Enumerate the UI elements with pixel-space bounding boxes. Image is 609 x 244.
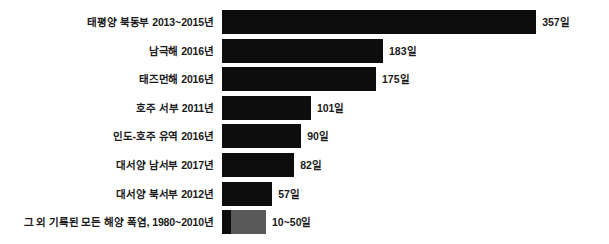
category-label: 호주 서부 2011년	[0, 96, 214, 120]
category-label: 대서양 남서부 2017년	[0, 153, 214, 177]
bar	[222, 96, 311, 120]
bar	[222, 210, 266, 234]
bar-segment	[231, 210, 266, 234]
bar-row: 그 외 기록된 모든 해양 폭염, 1980~2010년 10~50일	[0, 210, 609, 234]
category-label: 대서양 북서부 2012년	[0, 182, 214, 206]
bar-track: 82일	[222, 153, 322, 177]
bar	[222, 182, 272, 206]
value-label: 101일	[317, 96, 345, 120]
value-label: 57일	[278, 182, 300, 206]
bar-segment	[222, 182, 272, 206]
category-label: 인도-호주 유역 2016년	[0, 124, 214, 148]
bar-segment	[222, 67, 376, 91]
bar-segment	[222, 10, 536, 34]
bar-track: 183일	[222, 39, 417, 63]
bar-row: 인도-호주 유역 2016년 90일	[0, 124, 609, 148]
bar-track: 10~50일	[222, 210, 311, 234]
value-label: 357일	[542, 10, 570, 34]
bar-segment	[222, 39, 383, 63]
bar-track: 101일	[222, 96, 344, 120]
bar-row: 대서양 남서부 2017년 82일	[0, 153, 609, 177]
bar-segment	[222, 210, 231, 234]
bar	[222, 153, 294, 177]
bar-track: 357일	[222, 10, 570, 34]
category-label: 태평양 북동부 2013~2015년	[0, 10, 214, 34]
value-label: 175일	[382, 67, 410, 91]
bar-chart: 태평양 북동부 2013~2015년 357일 남극해 2016년 183일 태…	[0, 0, 609, 244]
bar-segment	[222, 96, 311, 120]
bar-track: 90일	[222, 124, 329, 148]
value-label: 183일	[389, 39, 417, 63]
bar-row: 태즈먼해 2016년 175일	[0, 67, 609, 91]
value-label: 90일	[307, 124, 329, 148]
bar-row: 대서양 북서부 2012년 57일	[0, 182, 609, 206]
bar-row: 호주 서부 2011년 101일	[0, 96, 609, 120]
value-label: 82일	[300, 153, 322, 177]
bar	[222, 10, 536, 34]
bar-segment	[222, 124, 301, 148]
bar-track: 175일	[222, 67, 410, 91]
bar-row: 태평양 북동부 2013~2015년 357일	[0, 10, 609, 34]
category-label: 그 외 기록된 모든 해양 폭염, 1980~2010년	[0, 210, 214, 234]
bar-segment	[222, 153, 294, 177]
value-label: 10~50일	[272, 210, 312, 234]
category-label: 남극해 2016년	[0, 39, 214, 63]
bar-track: 57일	[222, 182, 300, 206]
bar	[222, 67, 376, 91]
category-label: 태즈먼해 2016년	[0, 67, 214, 91]
bar	[222, 124, 301, 148]
bar	[222, 39, 383, 63]
bar-row: 남극해 2016년 183일	[0, 39, 609, 63]
bar-rows-container: 태평양 북동부 2013~2015년 357일 남극해 2016년 183일 태…	[0, 10, 609, 239]
